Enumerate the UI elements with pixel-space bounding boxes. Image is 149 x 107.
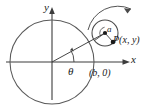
- math-figure: y x θ a P(x, y) (b, 0): [0, 0, 149, 107]
- rotation-direction-arrowhead: [124, 8, 131, 13]
- y-axis-label: y: [44, 2, 49, 13]
- central-angle-label: θ: [68, 66, 73, 77]
- radius-line: [52, 33, 105, 62]
- x-axis-arrowhead: [123, 59, 131, 65]
- point-p-label: P(x, y): [113, 35, 140, 45]
- figure-canvas: [0, 0, 149, 107]
- x-axis-label: x: [131, 54, 136, 65]
- tangent-point-label: (b, 0): [89, 68, 111, 78]
- y-axis-arrowhead: [49, 7, 55, 14]
- rolling-angle-label: a: [107, 25, 112, 34]
